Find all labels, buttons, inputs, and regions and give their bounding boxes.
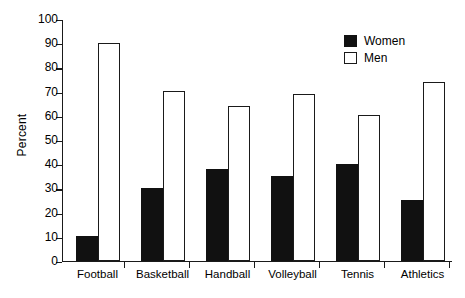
y-axis-tick-label: 80 [26, 60, 58, 74]
x-axis-label-volleyball: Volleyball [268, 268, 317, 280]
y-axis-tick-label: 50 [26, 133, 58, 147]
x-axis-tick-mark [124, 262, 125, 268]
bar-basketball-women [141, 188, 163, 261]
legend-swatch-men [344, 52, 357, 64]
y-axis-tick-label: 0 [26, 254, 58, 268]
y-axis-tick-label: 40 [26, 157, 58, 171]
x-axis-label-handball: Handball [205, 268, 250, 280]
legend-swatch-women [344, 35, 357, 47]
y-axis-tick-label: 10 [26, 230, 58, 244]
bar-tennis-men [358, 115, 380, 260]
bar-football-women [76, 236, 98, 260]
legend-item-men: Men [344, 49, 405, 66]
x-axis-tick-mark [384, 262, 385, 268]
x-axis-label-tennis: Tennis [341, 268, 374, 280]
bar-tennis-women [336, 164, 358, 261]
chart-legend: Women Men [344, 32, 405, 66]
x-axis-label-basketball: Basketball [136, 268, 189, 280]
bar-handball-men [228, 106, 250, 261]
x-axis-line [62, 261, 452, 262]
y-axis-tick-label: 30 [26, 181, 58, 195]
x-axis-tick-mark [189, 262, 190, 268]
bar-handball-women [206, 169, 228, 261]
bar-volleyball-men [293, 94, 315, 261]
x-axis-tick-mark [449, 262, 450, 268]
bar-football-men [98, 43, 120, 261]
x-axis-tick-mark [319, 262, 320, 268]
y-axis-tick-label: 20 [26, 206, 58, 220]
bar-chart: Percent 0102030405060708090100 Women Men… [0, 0, 465, 298]
bar-athletics-men [423, 82, 445, 261]
y-axis-line [62, 20, 63, 262]
bar-volleyball-women [271, 176, 293, 261]
y-axis-tick-label: 90 [26, 36, 58, 50]
x-axis-label-football: Football [77, 268, 118, 280]
legend-label-men: Men [364, 51, 387, 65]
y-axis-tick-label: 100 [26, 12, 58, 26]
y-axis-tick-label: 70 [26, 85, 58, 99]
x-axis-label-athletics: Athletics [401, 268, 444, 280]
bar-basketball-men [163, 91, 185, 260]
legend-label-women: Women [364, 34, 405, 48]
bar-athletics-women [401, 200, 423, 261]
x-axis-tick-mark [254, 262, 255, 268]
y-axis-tick-label: 60 [26, 109, 58, 123]
legend-item-women: Women [344, 32, 405, 49]
